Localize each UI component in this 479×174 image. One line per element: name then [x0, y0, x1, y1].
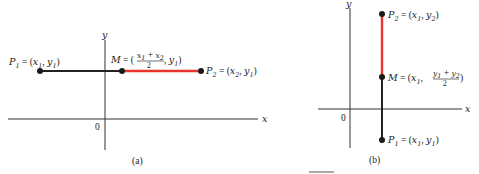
svg-text:M = (x1,: M = (x1, — [387, 72, 423, 86]
point-p1-b — [379, 137, 385, 143]
label-m-a: M = ( x1 + x2 2 , y1) — [110, 50, 181, 70]
y-axis-label-b: y — [345, 0, 352, 9]
origin-label-a: 0 — [95, 122, 100, 132]
point-m-a — [119, 68, 125, 74]
label-p1-b: P1 = (x1, y1) — [387, 134, 439, 148]
svg-text:M = (: M = ( — [110, 54, 134, 66]
origin-label-b: 0 — [341, 113, 346, 123]
label-p2-a: P2 = (x2, y1) — [205, 65, 257, 79]
point-p2-a — [198, 68, 204, 74]
midpoint-figure: y x 0 P1 = (x1, y1) M = ( x1 + x2 2 , y1… — [0, 0, 479, 174]
point-p2-b — [379, 11, 385, 17]
caption-b: (b) — [369, 155, 380, 166]
diagram-b: y x 0 P2 = (x1, y2) M = (x1, y1 + y2 2 )… — [318, 0, 471, 166]
y-axis-label-a: y — [101, 29, 108, 40]
figure-canvas: y x 0 P1 = (x1, y1) M = ( x1 + x2 2 , y1… — [0, 0, 479, 174]
point-m-b — [379, 74, 385, 80]
diagram-a: y x 0 P1 = (x1, y1) M = ( x1 + x2 2 , y1… — [8, 29, 268, 167]
label-p2-b: P2 = (x1, y2) — [387, 9, 439, 23]
x-axis-label-b: x — [465, 103, 471, 114]
caption-a: (a) — [132, 156, 143, 167]
label-p1-a: P1 = (x1, y1) — [8, 56, 60, 70]
svg-text:2: 2 — [443, 79, 447, 88]
label-m-b: M = (x1, y1 + y2 2 ) — [387, 68, 463, 88]
svg-text:): ) — [460, 73, 463, 84]
svg-text:, y1): , y1) — [164, 54, 181, 68]
svg-text:2: 2 — [147, 61, 151, 70]
x-axis-label-a: x — [262, 113, 268, 124]
